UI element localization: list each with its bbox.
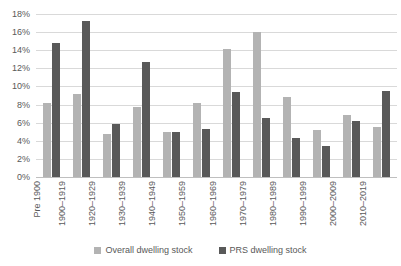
bar[interactable]: [163, 132, 171, 177]
bar-group: [337, 14, 367, 177]
bar[interactable]: [313, 130, 321, 177]
dwelling-stock-bar-chart: 0%2%4%6%8%10%12%14%16%18% Pre 19001900–1…: [0, 0, 401, 266]
bar[interactable]: [232, 92, 240, 177]
bar[interactable]: [283, 97, 291, 177]
y-axis-tick-label: 4%: [17, 136, 30, 145]
y-axis-tick-label: 10%: [12, 82, 30, 91]
x-axis-tick-label: 1950–1959: [179, 181, 188, 226]
y-axis-tick-label: 6%: [17, 118, 30, 127]
bar-group: [96, 14, 126, 177]
legend-swatch-icon: [94, 247, 101, 254]
y-axis-tick-label: 0%: [17, 173, 30, 182]
bar-group: [277, 14, 307, 177]
legend-item-label: PRS dwelling stock: [230, 246, 307, 255]
bar[interactable]: [103, 134, 111, 177]
bar[interactable]: [82, 21, 90, 177]
bar[interactable]: [382, 91, 390, 177]
x-axis-tick-label: 1980–1989: [269, 181, 278, 226]
x-axis-tick-label: 2000–2009: [329, 181, 338, 226]
x-axis-tick-label: 1930–1939: [119, 181, 128, 226]
bar[interactable]: [52, 43, 60, 177]
bar[interactable]: [43, 103, 51, 177]
bar[interactable]: [373, 127, 381, 177]
x-axis-label-cell: 2010–2019: [367, 179, 397, 237]
legend-item[interactable]: Overall dwelling stock: [94, 246, 192, 255]
chart-legend: Overall dwelling stockPRS dwelling stock: [0, 246, 401, 255]
bar[interactable]: [142, 62, 150, 177]
legend-swatch-icon: [219, 247, 226, 254]
x-axis-tick-label: 2010–2019: [359, 181, 368, 226]
y-axis-tick-label: 12%: [12, 64, 30, 73]
bar[interactable]: [112, 124, 120, 177]
x-axis-tick-label: 1970–1979: [239, 181, 248, 226]
bar-group: [367, 14, 397, 177]
x-axis-line: [36, 177, 397, 178]
x-axis-tick-label: 1940–1949: [149, 181, 158, 226]
x-axis-tick-label: Pre 1900: [33, 181, 42, 218]
bar-group: [186, 14, 216, 177]
x-axis-tick-label: 1960–1969: [209, 181, 218, 226]
bar[interactable]: [202, 129, 210, 177]
bar[interactable]: [73, 94, 81, 177]
bar[interactable]: [343, 115, 351, 177]
bar-groups: [36, 14, 397, 177]
bar-group: [216, 14, 246, 177]
bar-group: [66, 14, 96, 177]
bar[interactable]: [133, 107, 141, 177]
y-axis-tick-label: 18%: [12, 10, 30, 19]
bar[interactable]: [352, 121, 360, 177]
y-axis-tick-label: 8%: [17, 100, 30, 109]
x-axis-tick-label: 1920–1929: [89, 181, 98, 226]
bar[interactable]: [172, 132, 180, 177]
bar-group: [156, 14, 186, 177]
bar-group: [36, 14, 66, 177]
y-axis-tick-label: 2%: [17, 154, 30, 163]
y-axis-tick-label: 14%: [12, 46, 30, 55]
x-axis-labels: Pre 19001900–19191920–19291930–19391940–…: [36, 179, 397, 237]
bar[interactable]: [193, 103, 201, 177]
bar-group: [247, 14, 277, 177]
bar[interactable]: [262, 118, 270, 177]
x-axis-tick-label: 1990–1999: [299, 181, 308, 226]
bar[interactable]: [322, 146, 330, 177]
legend-item-label: Overall dwelling stock: [105, 246, 192, 255]
bar[interactable]: [292, 138, 300, 177]
plot-area: 0%2%4%6%8%10%12%14%16%18%: [0, 0, 401, 192]
bar-group: [126, 14, 156, 177]
bar[interactable]: [253, 32, 261, 177]
bar-group: [307, 14, 337, 177]
y-axis: 0%2%4%6%8%10%12%14%16%18%: [0, 14, 34, 177]
x-axis-tick-label: 1900–1919: [59, 181, 68, 226]
bar[interactable]: [223, 49, 231, 177]
legend-item[interactable]: PRS dwelling stock: [219, 246, 307, 255]
y-axis-tick-label: 16%: [12, 28, 30, 37]
